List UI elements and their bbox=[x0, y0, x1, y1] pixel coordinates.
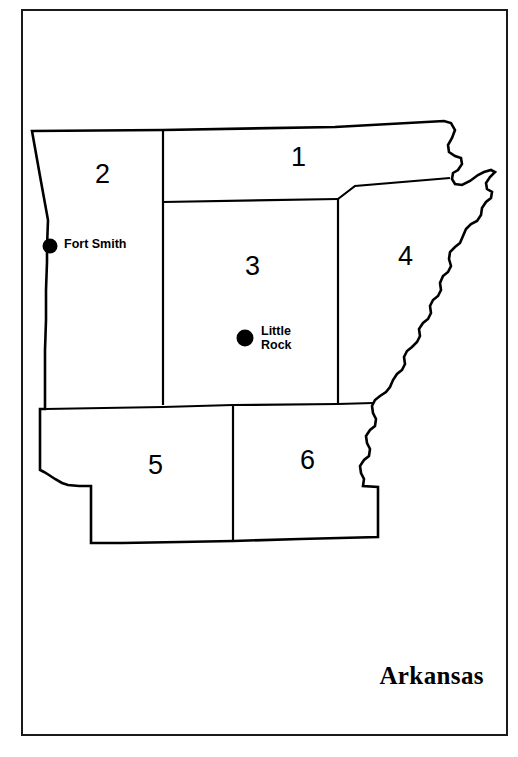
district-label-5: 5 bbox=[148, 452, 163, 479]
district-label-6: 6 bbox=[300, 447, 315, 474]
district-label-4: 4 bbox=[398, 243, 413, 270]
district-label-3: 3 bbox=[245, 253, 260, 280]
city-label-fort-smith: Fort Smith bbox=[64, 238, 127, 252]
state-title: Arkansas bbox=[379, 662, 484, 690]
map-page: 123456 Fort SmithLittle Rock Arkansas bbox=[0, 0, 518, 757]
district-label-1: 1 bbox=[291, 144, 306, 171]
city-label-little-rock: Little Rock bbox=[261, 325, 292, 352]
map-frame-border bbox=[21, 9, 508, 736]
district-label-2: 2 bbox=[95, 161, 110, 188]
